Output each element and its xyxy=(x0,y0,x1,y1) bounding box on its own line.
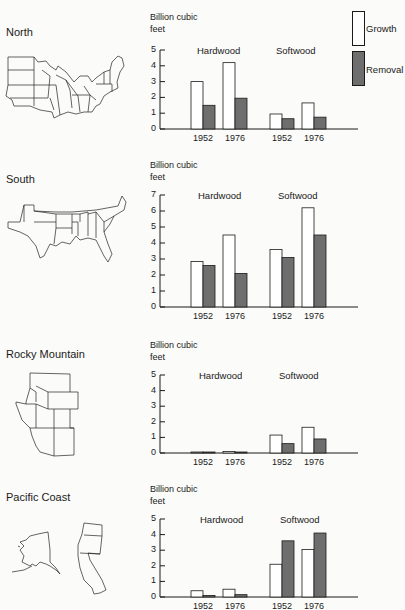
bar-removal xyxy=(314,117,326,129)
rocky-mountain-region-map-icon xyxy=(16,373,78,456)
bar-growth xyxy=(223,63,235,129)
bar-growth xyxy=(270,114,282,129)
bar-growth xyxy=(191,452,203,453)
pacific-coast-region-map-icon xyxy=(12,523,106,594)
bar-growth xyxy=(191,261,203,307)
south-region-map-icon xyxy=(8,196,126,262)
bar-growth xyxy=(302,427,314,453)
bar-plots xyxy=(160,50,358,597)
bar-removal xyxy=(235,452,247,453)
bar-removal xyxy=(235,98,247,129)
bar-removal xyxy=(203,265,215,307)
plot-pacific-coast xyxy=(160,519,358,597)
bar-removal xyxy=(282,444,294,453)
bar-growth xyxy=(223,235,235,307)
bar-removal xyxy=(282,119,294,129)
bar-removal xyxy=(235,273,247,307)
bar-growth xyxy=(223,589,235,597)
bar-growth xyxy=(223,451,235,453)
plot-south xyxy=(160,195,358,307)
bar-growth xyxy=(270,435,282,453)
chart-canvas xyxy=(0,0,405,610)
bar-growth xyxy=(302,549,314,597)
bar-removal xyxy=(314,235,326,307)
bar-removal xyxy=(235,595,247,597)
plot-north xyxy=(160,50,358,129)
bar-growth xyxy=(191,82,203,129)
plot-rocky-mountain xyxy=(160,375,358,453)
bar-removal xyxy=(203,105,215,129)
bar-growth xyxy=(270,564,282,597)
bar-removal xyxy=(203,452,215,453)
bar-growth xyxy=(302,103,314,129)
bar-removal xyxy=(282,257,294,307)
bar-removal xyxy=(203,595,215,597)
bar-growth xyxy=(191,591,203,597)
bar-growth xyxy=(270,249,282,307)
north-region-map-icon xyxy=(6,56,124,118)
bar-growth xyxy=(302,208,314,307)
bar-removal xyxy=(282,541,294,597)
bar-removal xyxy=(314,439,326,453)
bar-removal xyxy=(314,533,326,597)
